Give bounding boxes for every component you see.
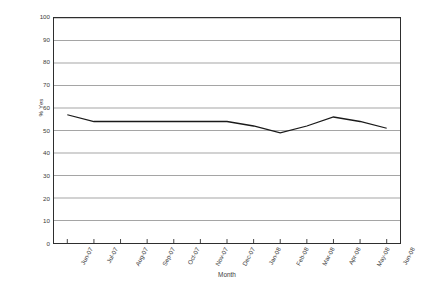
y-tick-label: 70 — [22, 82, 50, 88]
x-tick-label: Nov-07 — [214, 246, 230, 267]
x-tick-label: May-08 — [375, 246, 391, 268]
x-tick-label: Aug-07 — [134, 246, 150, 267]
y-tick-label: 50 — [22, 127, 50, 133]
figure-caption — [60, 294, 370, 302]
x-tick-label: Jan-08 — [267, 246, 282, 266]
x-tick-label: Dec-07 — [241, 246, 257, 267]
line-chart-figure: % Yes 0102030405060708090100 Jun-07Jul-0… — [0, 0, 428, 302]
y-tick-label: 30 — [22, 173, 50, 179]
plot-area — [53, 17, 401, 244]
x-tick-label: Feb-08 — [294, 246, 309, 267]
data-series-line — [67, 115, 386, 133]
y-tick-label: 80 — [22, 59, 50, 65]
y-tick-label: 90 — [22, 37, 50, 43]
y-tick-label: 10 — [22, 218, 50, 224]
x-tick-label: Jul-07 — [105, 246, 119, 264]
x-tick-label: Jun-07 — [79, 246, 94, 266]
x-tick-label: Oct-07 — [186, 246, 201, 266]
y-tick-label: 20 — [22, 195, 50, 201]
x-tick-label: Apr-08 — [347, 246, 362, 266]
y-tick-label: 40 — [22, 150, 50, 156]
x-axis-tick-marks — [67, 239, 386, 243]
y-tick-label: 60 — [22, 105, 50, 111]
x-tick-label: Jun-08 — [401, 246, 416, 266]
y-tick-label: 0 — [22, 241, 50, 247]
x-tick-label: Sep-07 — [160, 246, 176, 267]
x-tick-label: Mar-08 — [321, 246, 336, 267]
x-axis-title: Month — [53, 271, 401, 278]
y-tick-label: 100 — [22, 14, 50, 20]
y-axis-tick-labels: 0102030405060708090100 — [22, 14, 50, 244]
plot-canvas — [54, 18, 400, 243]
